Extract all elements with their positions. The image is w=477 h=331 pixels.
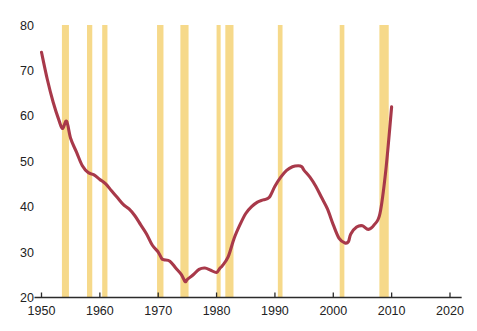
x-tick-label: 1960 (86, 304, 114, 318)
x-tick-label: 1990 (261, 304, 289, 318)
y-tick-labels: 20304050607080 (20, 19, 34, 306)
axis-layer (35, 293, 462, 298)
recession-band (278, 25, 283, 298)
x-tick-label: 1970 (144, 304, 172, 318)
y-tick-label: 50 (20, 155, 34, 169)
recession-band (180, 25, 188, 298)
y-tick-label: 30 (20, 246, 34, 260)
recession-band (217, 25, 221, 298)
x-tick-label: 2020 (436, 304, 464, 318)
recession-bands-layer (62, 25, 389, 298)
line-chart-svg: 20304050607080 1950196019701980199020002… (0, 0, 477, 331)
recession-band (102, 25, 107, 298)
x-tick-label: 2010 (378, 304, 406, 318)
recession-band (62, 25, 69, 298)
chart-container: 20304050607080 1950196019701980199020002… (0, 0, 477, 331)
x-tick-label: 2000 (319, 304, 347, 318)
x-tick-labels: 19501960197019801990200020102020 (28, 304, 464, 318)
x-tick-label: 1950 (28, 304, 56, 318)
x-tick-label: 1980 (203, 304, 231, 318)
y-tick-label: 60 (20, 109, 34, 123)
y-tick-label: 80 (20, 19, 34, 33)
y-tick-label: 40 (20, 200, 34, 214)
recession-band (340, 25, 345, 298)
recession-band (87, 25, 92, 298)
y-tick-label: 70 (20, 64, 34, 78)
